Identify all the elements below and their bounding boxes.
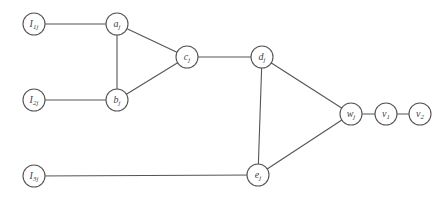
node-I3j: I3j [23,165,45,187]
node-ej: ej [247,164,269,186]
node-I2j: I2j [23,89,45,111]
node-aj: aj [106,13,128,35]
graph-diagram: I1jajbjI2jcjdjejI3jwjv1v2 [0,0,445,202]
edge-aj-cj [117,24,187,57]
node-bj: bj [106,89,128,111]
edge-ej-wj [258,114,351,175]
edge-I3j-ej [34,175,258,176]
node-cj: cj [176,46,198,68]
node-I1j: I1j [23,13,45,35]
node-v2: v2 [409,103,431,125]
edge-dj-wj [262,57,351,114]
node-dj: dj [251,46,273,68]
edge-bj-cj [117,57,187,100]
node-v1: v1 [375,103,397,125]
edges-layer [34,24,420,176]
node-wj: wj [340,103,362,125]
edge-dj-ej [258,57,262,175]
